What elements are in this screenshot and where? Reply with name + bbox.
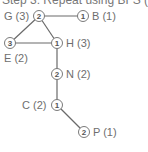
node-h-label: H (3) (66, 37, 90, 49)
node-h-value: 1 (55, 39, 60, 48)
node-c-value: 1 (55, 101, 60, 110)
node-b-value: 1 (81, 12, 86, 21)
node-p-value: 2 (82, 128, 87, 137)
node-n-value: 2 (55, 70, 60, 79)
node-b-label: B (1) (92, 10, 116, 22)
node-g-value: 2 (37, 12, 42, 21)
node-e-label: E (2) (4, 52, 28, 64)
node-c-label: C (2) (22, 99, 46, 111)
node-e-value: 3 (8, 39, 13, 48)
node-p-label: P (1) (93, 126, 117, 138)
node-g-label: G (3) (4, 10, 29, 22)
node-n-label: N (2) (66, 68, 90, 80)
